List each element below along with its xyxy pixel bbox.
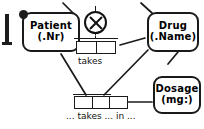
- role-cell[interactable]: [97, 42, 116, 53]
- entity-drug[interactable]: Drug (.Name): [147, 12, 199, 52]
- fact-label-takes-in: ... takes ... in ...: [66, 111, 136, 121]
- uniqueness-bar-takes-in: [73, 94, 111, 95]
- rolebox-takes[interactable]: [76, 41, 116, 54]
- entity-dosage[interactable]: Dosage (mg:): [153, 76, 201, 114]
- uniqueness-bar-takes: [74, 38, 118, 39]
- exclusion-constraint-icon[interactable]: [84, 11, 107, 34]
- entity-dosage-refmode: (mg:): [161, 95, 193, 106]
- role-cell[interactable]: [110, 97, 127, 108]
- object-marker-dot: [19, 10, 28, 19]
- entity-patient[interactable]: Patient (.Nr): [22, 12, 80, 52]
- pointer-foot: [2, 42, 12, 45]
- role-cell[interactable]: [93, 97, 111, 108]
- pointer-stem: [5, 14, 9, 44]
- orm-diagram-canvas: Patient (.Nr) Drug (.Name) Dosage (mg:) …: [0, 0, 204, 129]
- entity-drug-refmode: (.Name): [150, 32, 197, 43]
- fact-label-takes: takes: [78, 56, 102, 66]
- role-cell[interactable]: [77, 42, 97, 53]
- entity-patient-refmode: (.Nr): [37, 32, 64, 43]
- rolebox-takes-in[interactable]: [74, 96, 128, 109]
- role-cell[interactable]: [75, 97, 93, 108]
